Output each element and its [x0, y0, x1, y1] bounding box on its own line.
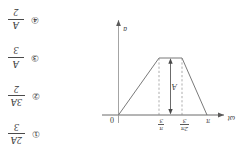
amplitude-arrowhead-bottom — [168, 58, 172, 64]
option-1-value: 2A 3 — [8, 122, 25, 146]
tick-numerator-pi-over-3: π — [158, 124, 164, 132]
tick-denominator-two-pi-over-3: 3 — [180, 116, 189, 123]
origin-label: 0 — [110, 115, 114, 123]
tick-label-two-pi-over-3: 2π 3 — [180, 116, 189, 132]
horizontal-axis-label: ωt — [228, 115, 235, 123]
vertical-axis-arrowhead — [116, 20, 121, 26]
answer-options-list: ① 2A 3 ② 3A 2 ③ A 3 ④ A 2 — [2, 0, 86, 153]
option-3[interactable]: ③ A 3 — [2, 45, 39, 69]
tick-label-pi-over-3: π 3 — [158, 116, 164, 132]
amplitude-label: A — [172, 83, 177, 92]
waveform-trace — [119, 58, 208, 115]
tick-label-pi: π — [206, 118, 210, 126]
option-2-denominator: 2 — [8, 83, 25, 95]
option-4-value: A 2 — [8, 7, 24, 31]
option-4-denominator: 2 — [8, 7, 24, 19]
option-2-marker: ② — [32, 91, 40, 100]
option-4[interactable]: ④ A 2 — [2, 7, 39, 31]
horizontal-axis-arrowhead — [218, 113, 224, 118]
amplitude-arrowhead-top — [168, 109, 172, 115]
question-sheet: 0 ωt a π 2π 3 π 3 A ① 2A — [0, 0, 238, 153]
option-3-value: A 3 — [8, 45, 24, 69]
tick-denominator-pi-over-3: 3 — [158, 116, 164, 123]
option-1[interactable]: ① 2A 3 — [2, 122, 40, 146]
acceleration-waveform-figure: 0 ωt a π 2π 3 π 3 A — [86, 0, 238, 153]
option-2[interactable]: ② 3A 2 — [2, 83, 40, 107]
option-4-numerator: A — [8, 19, 24, 32]
option-3-marker: ③ — [31, 53, 39, 62]
option-1-marker: ① — [32, 129, 40, 138]
option-3-denominator: 3 — [8, 45, 24, 57]
option-2-numerator: 3A — [8, 95, 25, 108]
option-4-marker: ④ — [31, 15, 39, 24]
option-2-value: 3A 2 — [8, 83, 25, 107]
option-1-denominator: 3 — [8, 122, 25, 134]
option-1-numerator: 2A — [8, 133, 25, 146]
vertical-axis-label: a — [123, 26, 127, 34]
tick-numerator-two-pi-over-3: 2π — [180, 124, 189, 132]
option-3-numerator: A — [8, 57, 24, 70]
